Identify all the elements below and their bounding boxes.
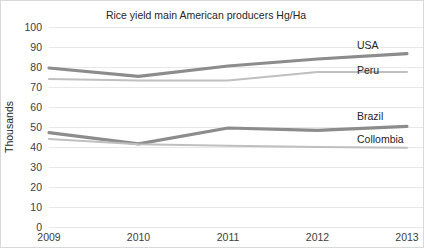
x-axis-tick: 2013	[395, 231, 419, 243]
y-axis-tick-labels: 0102030405060708090100	[24, 21, 42, 233]
y-axis-tick: 10	[30, 201, 42, 213]
y-axis-tick: 20	[30, 181, 42, 193]
y-axis-tick: 70	[30, 81, 42, 93]
y-axis-tick: 50	[30, 121, 42, 133]
x-axis-tick: 2012	[306, 231, 330, 243]
y-axis-tick: 80	[30, 61, 42, 73]
y-axis-tick: 100	[24, 21, 42, 33]
x-axis-tick: 2010	[127, 231, 151, 243]
y-axis-tick: 60	[30, 101, 42, 113]
y-axis-label: Thousands	[3, 101, 15, 153]
y-axis-tick: 40	[30, 141, 42, 153]
rice-yield-line-chart: 0102030405060708090100 20092010201120122…	[0, 0, 424, 248]
series-label-peru: Peru	[357, 64, 379, 76]
series-label-usa: USA	[357, 39, 379, 51]
series-label-brazil: Brazil	[357, 110, 383, 122]
x-axis-tick: 2009	[37, 231, 61, 243]
x-axis-tick-labels: 20092010201120122013	[37, 231, 419, 243]
chart-canvas: 0102030405060708090100 20092010201120122…	[1, 1, 423, 247]
series-lines-group	[49, 54, 407, 148]
y-axis-tick: 30	[30, 161, 42, 173]
series-label-collombia: Collombia	[357, 133, 404, 145]
x-axis-tick: 2011	[217, 231, 240, 243]
chart-title: Rice yield main American producers Hg/Ha	[106, 9, 306, 21]
y-axis-tick: 90	[30, 41, 42, 53]
